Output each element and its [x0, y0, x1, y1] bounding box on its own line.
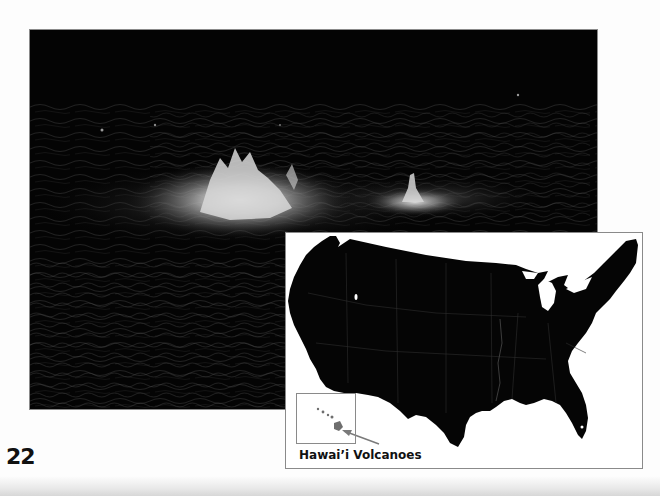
- hawaii-volcanoes-label: Hawai’i Volcanoes: [299, 448, 422, 462]
- page-bottom-texture: [0, 476, 660, 496]
- textbook-page: Hawai’i Volcanoes 22: [0, 0, 660, 496]
- us-map-inset: Hawai’i Volcanoes: [285, 232, 643, 469]
- page-number: 22: [6, 444, 35, 469]
- hawaii-inset-box: [296, 393, 356, 444]
